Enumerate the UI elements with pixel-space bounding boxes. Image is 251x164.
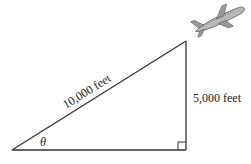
hypotenuse <box>12 41 186 150</box>
vertical-label: 5,000 feet <box>193 91 242 105</box>
angle-label: θ <box>40 135 46 149</box>
triangle-diagram: 10,000 feet 5,000 feet θ <box>0 0 251 164</box>
airplane-icon <box>189 0 248 40</box>
right-angle-marker <box>178 142 186 150</box>
right-triangle <box>12 41 186 150</box>
